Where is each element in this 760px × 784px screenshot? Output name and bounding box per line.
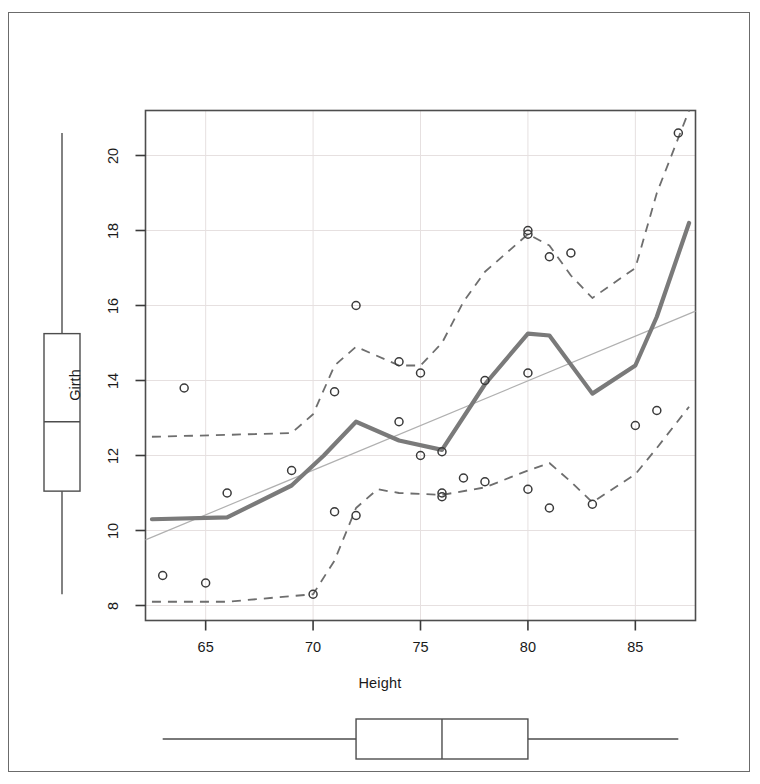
x-axis-ticks [206, 621, 636, 631]
x-tick-label-85: 85 [627, 639, 643, 655]
x-tick-label-70: 70 [305, 639, 321, 655]
y-tick-label-10: 10 [98, 519, 128, 543]
height-boxplot [163, 719, 679, 759]
x-tick-label-75: 75 [412, 639, 428, 655]
x-axis-title: Height [0, 675, 760, 691]
y-axis-title: Girth [55, 330, 95, 440]
data-point [331, 388, 339, 396]
data-point [653, 407, 661, 415]
grid-lines [146, 111, 696, 621]
y-axis-title-text: Girth [67, 369, 83, 400]
x-tick-label-65: 65 [198, 639, 214, 655]
data-point [159, 572, 167, 580]
y-tick-label-8: 8 [98, 594, 128, 618]
y-tick-label-16: 16 [98, 294, 128, 318]
y-tick-label-20: 20 [98, 144, 128, 168]
data-point [545, 253, 553, 261]
data-point [288, 467, 296, 475]
data-point [545, 504, 553, 512]
x-tick-label-80: 80 [520, 639, 536, 655]
data-point [180, 384, 188, 392]
y-tick-label-12: 12 [98, 444, 128, 468]
data-point [331, 508, 339, 516]
data-point [459, 474, 467, 482]
data-point [395, 418, 403, 426]
data-point [352, 512, 360, 520]
data-point [223, 489, 231, 497]
data-point [481, 478, 489, 486]
data-point [588, 500, 596, 508]
figure-page: Girth Height 65707580858101214161820 [0, 0, 760, 784]
data-point [567, 249, 575, 257]
y-axis-ticks [136, 156, 146, 606]
y-tick-label-14: 14 [98, 369, 128, 393]
y-tick-label-18: 18 [98, 219, 128, 243]
